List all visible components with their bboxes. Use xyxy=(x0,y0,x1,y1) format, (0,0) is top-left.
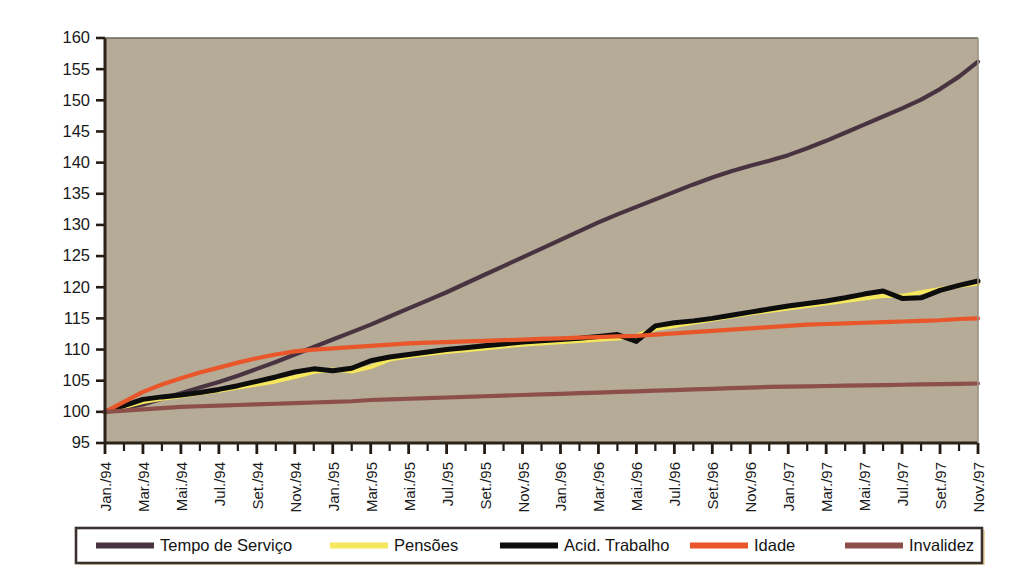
x-tick-label: Mar./95 xyxy=(363,462,380,512)
x-tick-label: Jan./95 xyxy=(325,462,342,511)
line-chart-figure: 1601551501451401351301251201151101051009… xyxy=(0,0,1034,588)
y-tick-label: 160 xyxy=(62,28,90,46)
y-tick-label: 155 xyxy=(62,60,90,78)
x-tick-label: Nov./94 xyxy=(287,462,304,513)
legend-item-label: Invalidez xyxy=(909,536,974,554)
x-tick-label: Mai./96 xyxy=(628,462,645,511)
x-tick-label: Jan./97 xyxy=(780,462,797,511)
x-tick-label: Jul./95 xyxy=(439,462,456,506)
legend-item-label: Tempo de Serviço xyxy=(160,536,292,554)
x-tick-label: Nov./95 xyxy=(515,462,532,513)
plot-area-background xyxy=(105,38,978,443)
y-tick-label: 120 xyxy=(62,278,90,296)
x-tick-label: Jan./94 xyxy=(97,462,114,511)
x-tick-label: Nov./96 xyxy=(742,462,759,513)
x-tick-label: Set./95 xyxy=(477,462,494,510)
y-tick-label: 145 xyxy=(62,122,90,140)
x-tick-label: Jan./96 xyxy=(552,462,569,511)
x-tick-label: Jul./97 xyxy=(894,462,911,506)
legend-item-label: Idade xyxy=(754,536,795,554)
y-tick-label: 130 xyxy=(62,215,90,233)
x-tick-label: Jul./94 xyxy=(211,462,228,506)
x-tick-label: Mar./96 xyxy=(590,462,607,512)
y-tick-label: 125 xyxy=(62,246,90,264)
x-tick-label: Mar./94 xyxy=(135,462,152,512)
x-tick-label: Mai./97 xyxy=(856,462,873,511)
x-tick-label: Set./96 xyxy=(704,462,721,510)
legend-item-label: Pensões xyxy=(394,536,458,554)
x-tick-label: Set./97 xyxy=(932,462,949,510)
chart-legend[interactable]: Tempo de ServiçoPensõesAcid. TrabalhoIda… xyxy=(76,528,985,565)
y-tick-label: 115 xyxy=(64,309,90,327)
y-tick-label: 150 xyxy=(62,91,90,109)
y-tick-label: 95 xyxy=(72,433,90,451)
y-tick-label: 135 xyxy=(62,184,90,202)
x-tick-label: Nov./97 xyxy=(970,462,987,513)
x-tick-label: Jul./96 xyxy=(666,462,683,506)
y-tick-label: 105 xyxy=(62,371,90,389)
y-tick-label: 140 xyxy=(62,153,90,171)
legend-item-label: Acid. Trabalho xyxy=(564,536,669,554)
y-tick-label: 110 xyxy=(64,340,90,358)
x-tick-label: Mai./94 xyxy=(173,462,190,511)
x-tick-label: Mai./95 xyxy=(401,462,418,511)
x-tick-label: Set./94 xyxy=(249,462,266,510)
x-tick-label: Mar./97 xyxy=(818,462,835,512)
y-tick-label: 100 xyxy=(62,402,90,420)
